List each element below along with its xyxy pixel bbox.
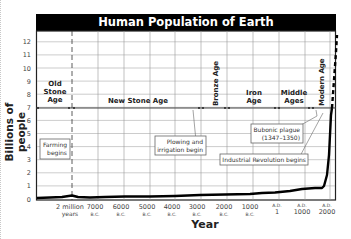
x-tick-label: 2000 xyxy=(216,203,233,211)
annotation-plague-2: (1347–1350) xyxy=(262,134,300,141)
era-old-stone-age: Old xyxy=(48,80,61,88)
y-tick-labels: 0123456789101112 xyxy=(23,38,31,203)
era-middle-ages-2: Ages xyxy=(284,97,303,105)
annotation-plow-2: irrigation begin xyxy=(157,146,203,154)
era-bronze-age: Bronze Age xyxy=(212,61,220,106)
plot-frame xyxy=(37,31,336,200)
x-tick-label: B.C. xyxy=(90,212,99,217)
y-tick-label: 10 xyxy=(23,65,31,73)
projection-line xyxy=(332,35,337,108)
era-old-stone-age-3: Age xyxy=(47,96,62,104)
era-iron-age-2: Age xyxy=(246,97,261,105)
annotation-farming: Farming xyxy=(43,141,67,149)
era-middle-ages: Middle xyxy=(281,89,308,97)
x-tick-label: 3000 xyxy=(189,203,206,211)
x-tick-label: 5000 xyxy=(139,203,156,211)
x-tick-label: B.C. xyxy=(245,212,254,217)
y-tick-label: 5 xyxy=(27,130,31,138)
y-tick-label: 7 xyxy=(27,104,31,112)
annotation-plow: Plowing and xyxy=(167,138,204,146)
x-tick-label: 6000 xyxy=(113,203,130,211)
x-tick-label: B.C. xyxy=(116,212,125,217)
x-tick-label: 1000 xyxy=(294,208,311,216)
annotation-plague: Bubonic plague xyxy=(253,126,300,134)
y-tick-label: 1 xyxy=(27,182,31,190)
y-tick-label: 3 xyxy=(27,156,31,164)
x-tick-label: 4000 xyxy=(164,203,181,211)
x-tick-label: B.C. xyxy=(167,212,176,217)
era-iron-age: Iron xyxy=(246,89,262,97)
annotation-plague-leader xyxy=(301,110,317,125)
y-tick-label: 9 xyxy=(27,78,31,86)
annotation-industrial: Industrial Revolution begins xyxy=(222,156,306,164)
x-tick-label: 1000 xyxy=(242,203,259,211)
era-old-stone-age-2: Stone xyxy=(44,88,67,96)
era-modern-age: Modern Age xyxy=(318,58,326,106)
y-tick-label: 8 xyxy=(27,91,31,99)
y-tick-label: 6 xyxy=(27,117,31,125)
population-chart: Human Population of Earth Billions of pe… xyxy=(0,0,351,239)
x-tick-label: B.C. xyxy=(219,212,228,217)
x-tick-label: 2000 xyxy=(319,208,336,216)
x-tick-label: 7000 xyxy=(87,203,104,211)
y-tick-label: 11 xyxy=(23,51,31,59)
x-tick-label: B.C. xyxy=(142,212,151,217)
era-new-stone-age: New Stone Age xyxy=(108,97,168,105)
chart-plot: 0123456789101112 2 millionyears7000B.C.6… xyxy=(0,0,351,239)
x-tick-label: 1 xyxy=(275,208,279,216)
y-tick-label: 2 xyxy=(27,169,31,177)
y-tick-label: 0 xyxy=(27,196,31,204)
x-tick-labels: 2 millionyears7000B.C.6000B.C.5000B.C.40… xyxy=(56,203,335,218)
annotation-farming-2: begins xyxy=(47,149,67,157)
x-tick-label: years xyxy=(62,210,79,218)
x-tick-label: B.C. xyxy=(192,212,201,217)
grid-lines xyxy=(37,31,335,200)
y-tick-label: 4 xyxy=(27,143,31,151)
y-tick-label: 12 xyxy=(23,38,31,46)
